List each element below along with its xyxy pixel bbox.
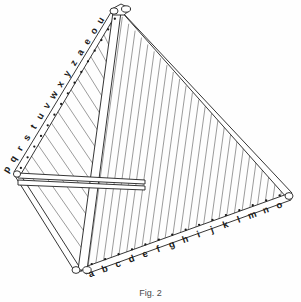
peg-dot (80, 71, 82, 73)
peg-dot (265, 199, 267, 201)
peg-dot (185, 229, 187, 231)
peg-dot (107, 28, 109, 30)
string-line (157, 79, 180, 244)
string-line (249, 162, 256, 211)
peg-dot (131, 248, 133, 250)
frame-beams (13, 4, 293, 274)
peg-dots-bottom-edge (91, 194, 281, 265)
peg-dot (94, 50, 96, 52)
string-line (48, 118, 92, 183)
figure-caption: Fig. 2 (0, 288, 301, 298)
string-line (188, 106, 205, 232)
left-edge-label: x (54, 78, 67, 89)
string-line (180, 100, 199, 236)
peg-dot (20, 167, 22, 169)
string-line (242, 155, 250, 213)
string-line (89, 53, 106, 82)
string-line (142, 65, 167, 249)
left-edge-label: p (0, 164, 13, 175)
string-line (203, 120, 218, 227)
peg-dot (33, 145, 35, 147)
left-edge-label: u (34, 110, 47, 121)
string-line (172, 93, 192, 239)
string-line (111, 38, 142, 261)
string-line (75, 75, 101, 116)
left-edge-label-group: pqrstuvwxyzaeou (0, 15, 106, 175)
string-line (134, 58, 161, 252)
peg-dot (171, 234, 173, 236)
string-line (41, 129, 90, 200)
peg-dot (40, 135, 42, 137)
peg-dot (252, 204, 254, 206)
left-edge-label: r (14, 143, 25, 152)
beam-apex-right (119, 9, 292, 198)
string-line (219, 134, 231, 221)
peg-dot (26, 156, 28, 158)
string-line (149, 72, 173, 247)
left-edge-label: z (67, 58, 79, 68)
apex-knob-right (122, 6, 131, 12)
string-line (119, 44, 148, 257)
beam-left-bottom (15, 176, 82, 272)
string-line (62, 96, 97, 149)
peg-dot (91, 263, 93, 265)
left-edge-label: s (20, 132, 32, 142)
peg-dot (114, 18, 116, 20)
string-line (28, 150, 86, 233)
left-edge-label: t (28, 122, 39, 131)
bottom-edge-label-group: abcdefghijklmno (87, 198, 284, 279)
bottom-knob-left (72, 267, 80, 274)
right-vertex-knob (285, 193, 293, 200)
peg-dot (198, 224, 200, 226)
peg-dot (144, 243, 146, 245)
peg-dot (100, 39, 102, 41)
figure-root: pqrstuvwxyzaeou abcdefghijklmno Fig. 2 (0, 0, 301, 302)
apex-knob-left (110, 8, 118, 14)
peg-dot (225, 214, 227, 216)
string-line (82, 64, 104, 99)
peg-dot (158, 238, 160, 240)
peg-dot (117, 253, 119, 255)
left-edge-label: y (61, 68, 74, 79)
tetrahedron-frame-diagram: pqrstuvwxyzaeou abcdefghijklmno (0, 0, 301, 302)
string-line (196, 113, 212, 229)
left-vertex-knob (13, 171, 20, 177)
peg-dot (53, 114, 55, 116)
left-edge-label: v (40, 100, 53, 111)
peg-dot (47, 124, 49, 126)
string-line (68, 86, 99, 133)
peg-dot (67, 92, 69, 94)
string-line (211, 127, 224, 224)
peg-dot (238, 209, 240, 211)
peg-dot (211, 219, 213, 221)
beam-bottom-right (82, 193, 291, 274)
peg-dot (73, 82, 75, 84)
peg-dot (278, 194, 280, 196)
string-line (234, 148, 243, 216)
string-line (126, 51, 154, 255)
peg-dot (87, 60, 89, 62)
peg-dot (60, 103, 62, 105)
string-line (257, 168, 262, 207)
peg-dot (104, 258, 106, 260)
left-edge-label: q (7, 153, 20, 164)
beam-center-post (78, 12, 121, 270)
